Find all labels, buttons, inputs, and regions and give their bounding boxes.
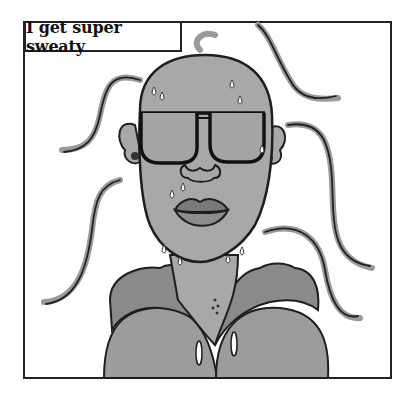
comic-illustration <box>0 0 415 400</box>
earring-left-icon <box>131 152 139 160</box>
comic-panel: I get super sweaty <box>0 0 415 400</box>
caption-box: I get super sweaty <box>24 21 182 52</box>
